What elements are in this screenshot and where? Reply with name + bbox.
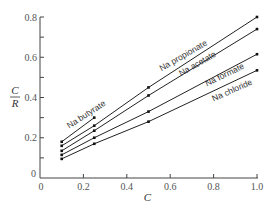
y-axis-title-numerator: C: [11, 84, 19, 96]
x-tick-label: 0.2: [77, 181, 90, 192]
data-point: [147, 110, 150, 113]
data-point: [147, 120, 150, 123]
data-point: [147, 86, 150, 89]
x-tick-label: 0.6: [164, 181, 177, 192]
chart: 00.20.40.60.81.000.20.40.60.8CCR Na buty…: [0, 0, 270, 208]
axes: 00.20.40.60.81.000.20.40.60.8CCR: [10, 12, 263, 204]
y-tick-label: 0.8: [25, 12, 38, 23]
y-axis-title-denominator: R: [11, 97, 19, 109]
x-tick-label: 0.8: [207, 181, 220, 192]
data-point: [256, 28, 259, 31]
data-point: [93, 136, 96, 139]
y-tick-label: 0: [31, 168, 36, 179]
data-point: [256, 53, 259, 56]
y-tick-label: 0.6: [25, 52, 38, 63]
data-point: [256, 69, 259, 72]
series-label: Na butyrate: [65, 98, 108, 130]
y-tick-label: 0.2: [25, 132, 38, 143]
data-point: [93, 124, 96, 127]
x-tick-label: 0.4: [121, 181, 134, 192]
y-tick-label: 0.4: [25, 92, 38, 103]
x-axis-title: C: [144, 191, 152, 203]
data-point: [93, 116, 96, 119]
x-tick-label: 0: [39, 181, 44, 192]
x-tick-label: 1.0: [251, 181, 264, 192]
series-line-na-propionate: [62, 17, 257, 146]
data-point: [93, 129, 96, 132]
data-point: [93, 142, 96, 145]
data-point: [147, 94, 150, 97]
data-point: [60, 140, 63, 143]
data-point: [60, 145, 63, 148]
data-point: [60, 154, 63, 157]
data-point: [256, 16, 259, 19]
data-point: [60, 158, 63, 161]
data-point: [60, 150, 63, 153]
